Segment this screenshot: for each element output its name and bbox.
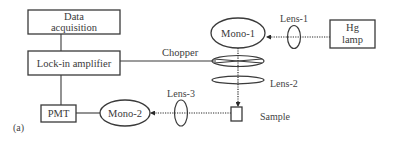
sample: Sample [231,107,291,122]
mono2-monochromator: Mono-2 [100,100,150,126]
hg-lamp-label-line1: Hg [346,22,360,33]
chopper: Chopper [162,47,264,67]
lens3-label: Lens-3 [167,88,195,99]
mono2-label: Mono-2 [108,108,142,119]
mono1-label: Mono-1 [221,28,255,39]
lens2: Lens-2 [212,76,298,89]
sample-label: Sample [260,111,291,122]
pmt-box: PMT [41,105,76,122]
data-acquisition-box: Data acquisition [28,10,120,34]
optical-setup-diagram: Data acquisition Lock-in amplifier PMT (… [0,0,395,142]
lockin-amplifier-box: Lock-in amplifier [28,51,120,75]
lens3: Lens-3 [167,88,195,126]
data-acquisition-label-line2: acquisition [51,22,98,33]
lockin-amplifier-label: Lock-in amplifier [37,58,112,69]
data-acquisition-label-line1: Data [64,11,84,22]
chopper-label: Chopper [162,47,199,58]
panel-label: (a) [13,122,24,134]
hg-lamp-box: Hg lamp [330,20,375,48]
hg-lamp-label-line2: lamp [342,34,363,45]
lens1-label: Lens-1 [280,13,308,24]
lens2-label: Lens-2 [270,78,298,89]
mono1-monochromator: Mono-1 [211,18,265,48]
pmt-label: PMT [48,108,70,119]
lens1: Lens-1 [280,13,308,49]
